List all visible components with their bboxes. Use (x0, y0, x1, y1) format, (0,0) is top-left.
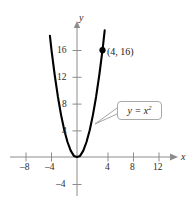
marked-point-label: (4, 16) (107, 47, 134, 57)
marked-point (99, 47, 105, 53)
callout-leader-line (95, 108, 117, 124)
x-tick-label-4: 4 (105, 163, 110, 173)
parabola-plot (0, 0, 196, 204)
y-tick-label-4: 4 (62, 127, 67, 137)
y-axis-label: y (79, 13, 83, 23)
equation-exponent: 2 (148, 103, 151, 110)
equation-callout: y = x2 (117, 101, 162, 120)
graph-figure: –8 –4 4 8 12 16 12 8 4 –4 y x (4, 16) y … (0, 0, 196, 204)
y-tick-label--4: –4 (56, 180, 66, 190)
x-tick-label-8: 8 (130, 163, 135, 173)
y-tick-label-8: 8 (62, 100, 67, 110)
equation-text: y = x2 (128, 106, 152, 116)
y-axis (74, 21, 80, 196)
y-tick-label-16: 16 (57, 46, 67, 56)
x-axis-label: x (181, 152, 185, 162)
y-tick-label-12: 12 (57, 73, 67, 83)
x-axis (10, 154, 178, 161)
x-tick-label--8: –8 (20, 163, 30, 173)
equation-base: y = x (128, 105, 149, 116)
x-tick-label--4: –4 (45, 163, 55, 173)
x-tick-label-12: 12 (153, 163, 163, 173)
